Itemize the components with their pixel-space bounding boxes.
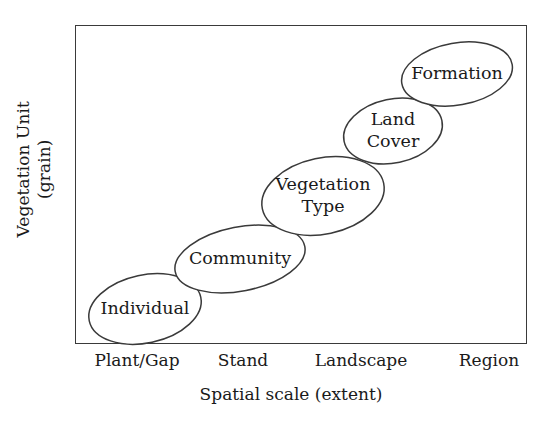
x-axis-tick-4: Region [389, 350, 552, 370]
figure-canvas: IndividualCommunityVegetationTypeLandCov… [0, 0, 552, 431]
x-axis-title: Spatial scale (extent) [0, 384, 552, 404]
y-axis-title: Vegetation Unit (grain) [13, 49, 56, 289]
plot-frame [75, 25, 527, 344]
y-axis-title-line1: Vegetation Unit [13, 49, 34, 289]
y-axis-title-line2: (grain) [34, 49, 55, 289]
